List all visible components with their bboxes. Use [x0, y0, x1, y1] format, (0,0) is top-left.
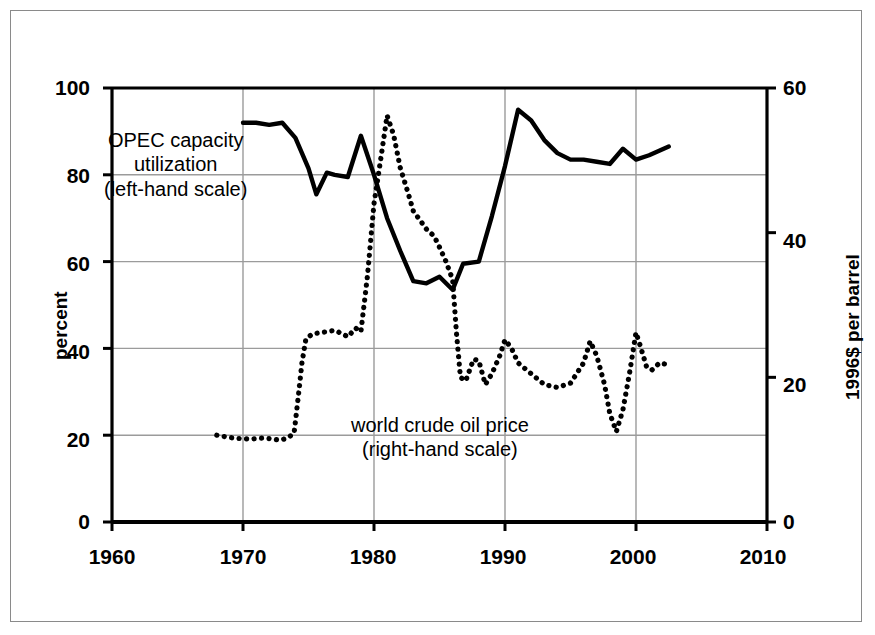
opec-annotation-line-3: (left-hand scale)	[104, 177, 247, 201]
series-path-0	[243, 110, 669, 290]
y-right-tick-40: 40	[783, 229, 853, 253]
opec-annotation-line-1: OPEC capacity	[104, 128, 247, 152]
x-tick-2000: 2000	[583, 545, 683, 569]
chart-figure: 100 80 60 40 20 0 60 40 20 0 1960 1970 1…	[0, 0, 875, 635]
y-left-tick-0: 0	[20, 510, 90, 534]
y-right-tick-0: 0	[783, 510, 853, 534]
y-right-tick-60: 60	[783, 76, 853, 100]
x-tick-1980: 1980	[323, 545, 423, 569]
y-left-axis-title: percent	[50, 291, 72, 360]
y-left-tick-20: 20	[20, 428, 90, 452]
opec-capacity-annotation: OPEC capacity utilization (left-hand sca…	[104, 128, 247, 201]
oil-annotation-line-2: (right-hand scale)	[351, 437, 529, 461]
oil-annotation-line-1: world crude oil price	[351, 413, 529, 437]
x-tick-1960: 1960	[62, 545, 162, 569]
y-left-tick-80: 80	[20, 164, 90, 188]
opec-annotation-line-2: utilization	[104, 152, 247, 176]
y-right-axis-title: 1996$ per barrel	[842, 254, 864, 400]
y-left-tick-60: 60	[20, 252, 90, 276]
data-series-layer	[217, 110, 669, 441]
x-tick-1990: 1990	[453, 545, 553, 569]
x-tick-2010: 2010	[713, 545, 813, 569]
x-tick-1970: 1970	[193, 545, 293, 569]
y-left-tick-100: 100	[20, 76, 90, 100]
chart-plot-area	[0, 0, 875, 635]
oil-price-annotation: world crude oil price (right-hand scale)	[351, 413, 529, 462]
